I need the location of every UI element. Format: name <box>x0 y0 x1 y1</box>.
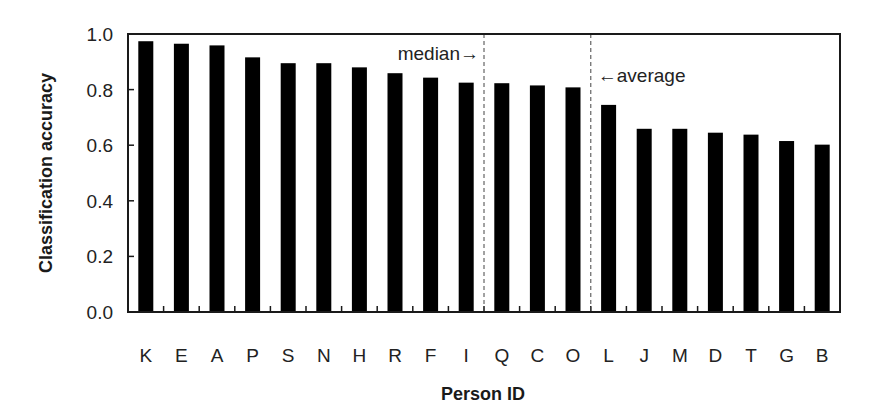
bar-J <box>637 129 652 312</box>
y-tick-label: 0.4 <box>87 191 114 212</box>
x-tick-label: J <box>639 345 649 366</box>
y-tick-label: 0.8 <box>87 80 113 101</box>
bar-P <box>245 57 260 312</box>
bar-M <box>672 129 687 312</box>
x-tick-label: T <box>745 345 757 366</box>
x-tick-label: A <box>211 345 224 366</box>
x-tick-label: C <box>531 345 545 366</box>
y-tick-label: 0.2 <box>87 246 113 267</box>
bar-Q <box>494 83 509 312</box>
x-tick-label: Q <box>494 345 509 366</box>
x-tick-label: E <box>175 345 188 366</box>
bar-I <box>459 83 474 312</box>
bar-O <box>566 87 581 312</box>
bar-T <box>744 135 759 312</box>
x-tick-label: N <box>317 345 331 366</box>
bar-K <box>138 41 153 312</box>
x-axis-title: Person ID <box>441 384 525 404</box>
bar-L <box>601 105 616 312</box>
x-tick-label: I <box>464 345 469 366</box>
x-tick-label: H <box>353 345 367 366</box>
x-tick-label: K <box>139 345 152 366</box>
y-tick-label: 0.0 <box>87 302 113 323</box>
x-tick-label: B <box>816 345 829 366</box>
x-tick-label: O <box>566 345 581 366</box>
bar-C <box>530 85 545 312</box>
x-axis-ticks: KEAPSNHRFIQCOLJMDTGB <box>139 306 828 366</box>
average-label: ←average <box>598 65 686 86</box>
x-tick-label: R <box>388 345 402 366</box>
bar-H <box>352 67 367 312</box>
bar-chart: 0.00.20.40.60.81.0 KEAPSNHRFIQCOLJMDTGB … <box>0 0 877 420</box>
plot-area-frame <box>128 34 840 312</box>
bar-N <box>316 63 331 312</box>
bar-B <box>815 145 830 312</box>
y-axis-ticks: 0.00.20.40.60.81.0 <box>87 24 134 323</box>
y-tick-label: 0.6 <box>87 135 113 156</box>
bar-E <box>174 44 189 312</box>
x-tick-label: S <box>282 345 295 366</box>
bar-R <box>388 73 403 312</box>
x-tick-label: D <box>709 345 723 366</box>
bar-F <box>423 78 438 312</box>
median-label: median→ <box>398 43 479 64</box>
bar-G <box>779 141 794 312</box>
bar-A <box>210 45 225 312</box>
x-tick-label: G <box>779 345 794 366</box>
x-tick-label: P <box>246 345 259 366</box>
x-tick-label: L <box>603 345 614 366</box>
x-tick-label: M <box>672 345 688 366</box>
y-axis-title: Classification accuracy <box>36 73 56 273</box>
bar-D <box>708 133 723 312</box>
bar-S <box>281 63 296 312</box>
y-tick-label: 1.0 <box>87 24 113 45</box>
x-tick-label: F <box>425 345 437 366</box>
